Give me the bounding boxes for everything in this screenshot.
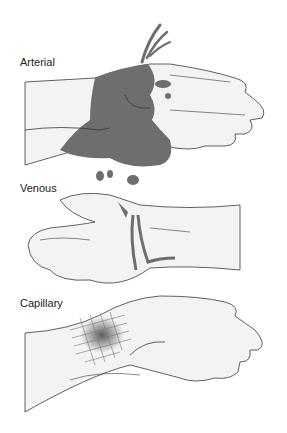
venous-label: Venous bbox=[20, 182, 57, 194]
capillary-hand-illustration bbox=[25, 296, 262, 412]
arterial-hand-illustration bbox=[25, 25, 264, 185]
bleeding-types-diagram: Arterial Venous Capillary bbox=[0, 0, 287, 433]
arterial-label: Arterial bbox=[20, 56, 55, 68]
capillary-label: Capillary bbox=[20, 297, 63, 309]
venous-hand-illustration bbox=[28, 193, 240, 283]
